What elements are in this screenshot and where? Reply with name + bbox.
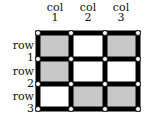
grid-cell-r3-c3	[105, 84, 138, 109]
grid-node-circle	[69, 107, 74, 112]
grid-node-circle	[103, 31, 108, 36]
grid-node-circle	[136, 57, 141, 62]
grid-cell-r1-c2	[71, 33, 105, 59]
grid-node-circle	[36, 82, 41, 87]
grid-cell-r3-c2	[71, 84, 105, 109]
grid-node-circle	[136, 31, 141, 36]
grid-node-circle	[136, 107, 141, 112]
grid-node-circle	[69, 31, 74, 36]
grid-node-circle	[103, 82, 108, 87]
grid-node-circle	[136, 82, 141, 87]
grid-cell-r2-c2	[71, 59, 105, 84]
grid-cells	[38, 33, 138, 109]
grid-cell-r1-c3	[105, 33, 138, 59]
grid-node-circle	[103, 57, 108, 62]
grid-diagram	[0, 0, 148, 117]
grid-node-circle	[36, 107, 41, 112]
grid-node-circle	[36, 31, 41, 36]
grid-cell-r2-c3	[105, 59, 138, 84]
grid-cell-r2-c1	[38, 59, 71, 84]
grid-node-circle	[103, 107, 108, 112]
grid-cell-r1-c1	[38, 33, 71, 59]
grid-cell-r3-c1	[38, 84, 71, 109]
grid-node-circle	[69, 82, 74, 87]
grid-node-circle	[36, 57, 41, 62]
grid-node-circle	[69, 57, 74, 62]
